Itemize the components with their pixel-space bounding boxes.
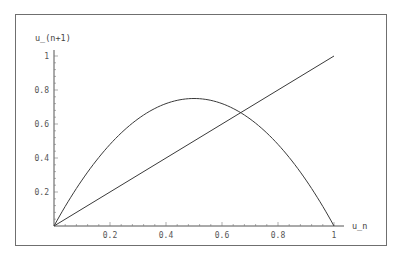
y-tick-label: 0.2 <box>35 188 50 197</box>
x-tick-label: 0.6 <box>215 231 230 240</box>
y-tick-label: 0.6 <box>35 120 50 129</box>
x-tick-label: 0.8 <box>271 231 286 240</box>
x-axis-label: u_n <box>352 221 367 231</box>
x-tick-label: 0.2 <box>103 231 118 240</box>
x-tick-label: 1 <box>332 231 337 240</box>
x-tick-label: 0.4 <box>159 231 174 240</box>
logistic-curve <box>54 99 334 227</box>
x-ticks: 0.20.40.60.81 <box>65 222 336 240</box>
identity-line <box>54 56 334 226</box>
y-axis-label: u_(n+1) <box>35 33 71 43</box>
y-tick-label: 1 <box>44 52 49 61</box>
chart-canvas: 0.20.40.60.81 0.20.40.60.81 u_(n+1) u_n <box>0 0 402 259</box>
y-tick-label: 0.4 <box>35 154 50 163</box>
y-tick-label: 0.8 <box>35 86 50 95</box>
